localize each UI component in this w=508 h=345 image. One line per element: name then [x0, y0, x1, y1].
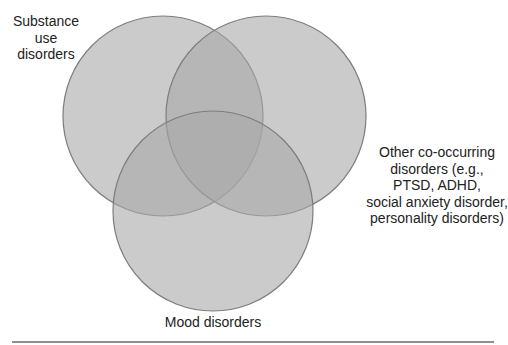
label-other-co-occurring-disorders: Other co-occurring disorders (e.g., PTSD… [366, 144, 508, 227]
label-line: social anxiety disorder, [366, 194, 508, 211]
label-line: personality disorders) [366, 210, 508, 227]
label-substance-use-disorders: Substance use disorders [0, 13, 92, 63]
label-line: disorders [0, 46, 92, 63]
label-line: Mood disorders [150, 314, 276, 331]
label-line: PTSD, ADHD, [366, 177, 508, 194]
bottom-divider [12, 341, 494, 343]
circle-mood [113, 111, 313, 311]
label-mood-disorders: Mood disorders [150, 314, 276, 331]
label-line: disorders (e.g., [366, 161, 508, 178]
label-line: Other co-occurring [366, 144, 508, 161]
label-line: use [0, 30, 92, 47]
label-line: Substance [0, 13, 92, 30]
